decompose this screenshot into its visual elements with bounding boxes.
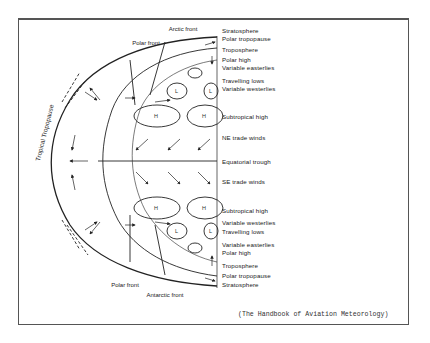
- label-polar-tropopause-n: Polar tropopause: [222, 35, 271, 42]
- label-stratosphere-n: Stratosphere: [222, 27, 259, 34]
- label-variable-easterlies-n: Variable easterlies: [222, 64, 274, 71]
- label-polar-high-n: Polar high: [222, 56, 251, 63]
- high-cell-label: H: [154, 205, 158, 211]
- polar-front-south-label: Polar front: [110, 282, 140, 288]
- label-subtropical-high-s: Subtropical high: [222, 207, 268, 214]
- low-cell-label: L: [209, 228, 212, 234]
- polar-front-north-label: Polar front: [130, 40, 162, 46]
- low-cell-label: L: [175, 88, 178, 94]
- polar-low-s: [188, 243, 202, 253]
- outer-tropopause-arc: [51, 37, 217, 286]
- high-cell-label: H: [202, 205, 206, 211]
- polar-low-n: [188, 68, 202, 78]
- label-troposphere-s: Troposphere: [222, 262, 258, 269]
- label-ne-trade-winds: NE trade winds: [222, 134, 265, 141]
- high-cell-label: H: [202, 113, 206, 119]
- low-cell-label: L: [209, 88, 212, 94]
- label-equatorial-trough: Equatorial trough: [222, 158, 271, 165]
- label-troposphere-n: Troposphere: [222, 46, 258, 53]
- high-cell-label: H: [154, 113, 158, 119]
- figure-caption: (The Handbook of Aviation Meteorology): [238, 311, 388, 318]
- label-polar-high-s: Polar high: [222, 249, 251, 256]
- antarctic-front-label: Antarctic front: [145, 292, 185, 298]
- label-polar-tropopause-s: Polar tropopause: [222, 272, 271, 279]
- label-stratosphere-s: Stratosphere: [222, 281, 259, 288]
- label-variable-westerlies-n: Variable westerlies: [222, 85, 275, 92]
- label-travelling-lows-n: Travelling lows: [222, 77, 264, 84]
- label-variable-westerlies-s: Variable westerlies: [222, 219, 275, 226]
- earth-surface-arc: [103, 48, 217, 276]
- low-cell-label: L: [175, 228, 178, 234]
- label-subtropical-high-n: Subtropical high: [222, 113, 268, 120]
- global-circulation-diagram: [0, 0, 430, 343]
- label-travelling-lows-s: Travelling lows: [222, 228, 264, 235]
- label-se-trade-winds: SE trade winds: [222, 178, 265, 185]
- arctic-front-label: Arctic front: [168, 26, 198, 32]
- label-variable-easterlies-s: Variable easterlies: [222, 241, 274, 248]
